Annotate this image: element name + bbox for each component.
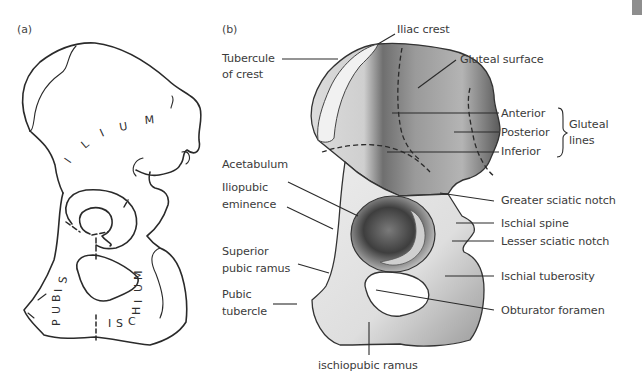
label-ischial-spine: Ischial spine [501,216,569,231]
label-gluteal-lines-line2: lines [569,133,595,148]
label-tubercule-of-crest-line1: Tubercule [222,51,275,66]
leader-acetabulum [288,182,358,216]
gluteal-lines-brace [557,108,567,157]
label-iliopubic-eminence-line1: Iliopubic [222,180,268,195]
label-superior-pubic-ramus-line1: Superior [222,244,269,259]
label-ischial-tuberosity: Ischial tuberosity [501,269,595,284]
leader-superior-ramus [298,264,329,273]
leader-gluteal-surface [418,60,456,88]
label-acetabulum: Acetabulum [222,157,288,172]
label-gluteal-lines-line1: Gluteal [569,117,608,132]
label-pubic-tubercle-line2: tubercle [222,304,267,319]
label-pubic-tubercle-line1: Pubic [222,287,252,302]
label-superior-pubic-ramus-line2: pubic ramus [222,261,290,276]
leader-iliopubic [287,207,333,229]
label-iliopubic-eminence-line2: eminence [222,197,276,212]
label-tubercule-of-crest-line2: of crest [222,67,263,82]
panel-b-tag: (b) [222,22,237,37]
label-iliac-crest: Iliac crest [397,22,450,37]
leader-greater-sciatic [440,193,494,201]
label-anterior-gluteal-line: Anterior [501,106,545,121]
label-gluteal-surface: Gluteal surface [460,52,544,67]
label-obturator-foramen: Obturator foramen [501,303,605,318]
hip-bone-figure: (a) [0,0,642,389]
label-greater-sciatic-notch: Greater sciatic notch [501,193,616,208]
label-posterior-gluteal-line: Posterior [501,125,550,140]
label-ischiopubic-ramus: ischiopubic ramus [318,358,418,373]
label-lesser-sciatic-notch: Lesser sciatic notch [501,234,609,249]
leader-iliac-crest [378,34,395,44]
label-inferior-gluteal-line: Inferior [501,144,541,159]
leader-obturator [376,290,494,310]
